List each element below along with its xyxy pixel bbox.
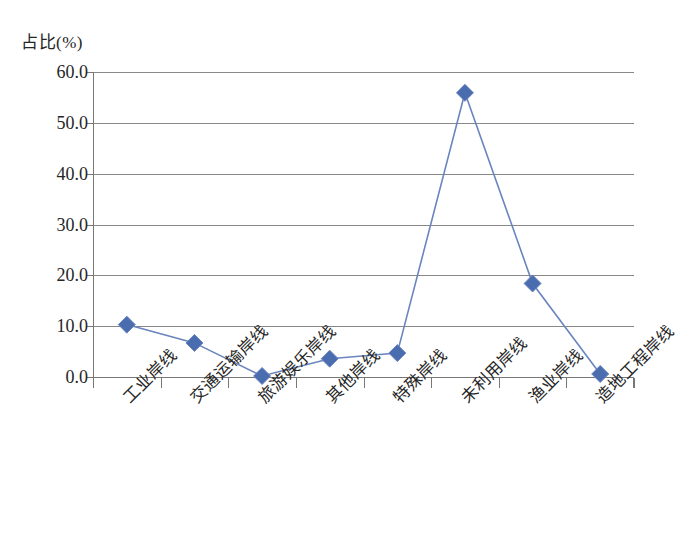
y-tick-label: 20.0 <box>16 266 88 284</box>
x-tick-mark <box>161 378 162 388</box>
x-tick-mark <box>228 378 229 388</box>
data-point-marker[interactable] <box>524 275 541 292</box>
data-series-layer <box>93 72 634 378</box>
series-line <box>127 93 600 376</box>
x-tick-mark <box>566 378 567 388</box>
x-tick-mark <box>296 378 297 388</box>
x-tick-mark <box>499 378 500 388</box>
data-point-marker[interactable] <box>456 84 473 101</box>
y-tick-label: 0.0 <box>16 368 88 386</box>
data-point-marker[interactable] <box>186 334 203 351</box>
x-tick-mark <box>93 378 94 388</box>
data-point-marker[interactable] <box>389 345 406 362</box>
x-tick-mark <box>634 378 635 388</box>
y-tick-label: 50.0 <box>16 114 88 132</box>
y-tick-label: 60.0 <box>16 63 88 81</box>
y-tick-label: 10.0 <box>16 317 88 335</box>
data-point-marker[interactable] <box>118 316 135 333</box>
x-tick-mark <box>431 378 432 388</box>
x-tick-mark <box>364 378 365 388</box>
y-tick-label: 30.0 <box>16 216 88 234</box>
data-point-marker[interactable] <box>321 350 338 367</box>
y-tick-label: 40.0 <box>16 165 88 183</box>
y-axis-title: 占比(%) <box>21 28 83 53</box>
